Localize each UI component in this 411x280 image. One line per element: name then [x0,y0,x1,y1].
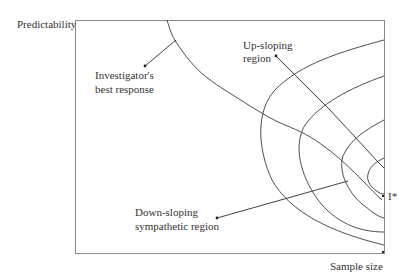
y-axis-label: Predictability [17,18,77,30]
down-sloping-pointer-dot [216,217,219,220]
up-sloping-label-line1: Up-sloping [243,39,293,51]
contour-base-point [382,251,384,253]
best-response-pointer-dot [144,65,147,68]
optimum-label: I* [388,190,397,202]
indifference-contour-3 [342,120,384,218]
diagram-canvas: Predictability Sample size Investigator'… [0,0,411,280]
best-response-label-line1: Investigator's [95,69,154,81]
down-sloping-pointer [217,181,348,218]
indifference-contour-1 [261,40,384,245]
down-sloping-label-line1: Down-sloping [135,206,198,218]
down-sloping-label-line2: sympathetic region [135,220,220,232]
up-sloping-label-line2: region [243,52,272,64]
optimum-point [382,195,384,197]
up-sloping-pointer-dot [275,55,278,58]
best-response-label-line2: best response [95,83,154,95]
x-axis-label: Sample size [330,260,383,272]
best-response-pointer [145,40,176,66]
indifference-contour-2 [299,76,384,232]
